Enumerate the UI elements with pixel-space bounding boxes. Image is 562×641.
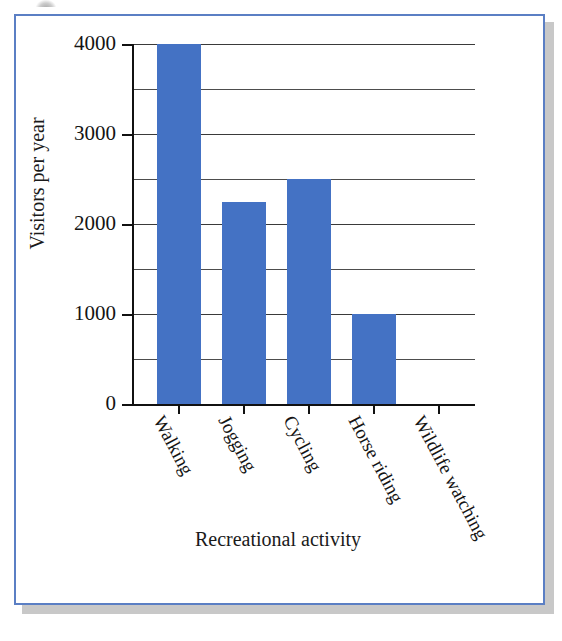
x-tick-jogging bbox=[243, 406, 245, 414]
y-tick-label-0: 0 bbox=[42, 393, 116, 414]
bar-cycling[interactable] bbox=[287, 179, 331, 404]
y-tick-3000 bbox=[122, 134, 134, 136]
y-tick-label-1000: 1000 bbox=[42, 303, 116, 324]
x-label-wildlife-watching: Wildlife watching bbox=[409, 412, 493, 543]
x-label-walking: Walking bbox=[149, 412, 198, 479]
x-axis-title: Recreational activity bbox=[128, 528, 428, 551]
y-tick-4000 bbox=[122, 44, 134, 46]
x-tick-horse-riding bbox=[373, 406, 375, 414]
x-label-jogging: Jogging bbox=[214, 412, 262, 475]
y-tick-label-4000: 4000 bbox=[42, 33, 116, 54]
bar-walking[interactable] bbox=[157, 44, 201, 404]
x-axis-line bbox=[124, 404, 475, 406]
y-tick-0 bbox=[122, 404, 134, 406]
y-tick-2000 bbox=[122, 224, 134, 226]
y-tick-1000 bbox=[122, 314, 134, 316]
bar-jogging[interactable] bbox=[222, 202, 266, 404]
figure-page: Visitors per year 4000 3000 2000 1000 0 bbox=[0, 0, 562, 641]
x-tick-cycling bbox=[308, 406, 310, 414]
x-tick-walking bbox=[178, 406, 180, 414]
bar-chart: Visitors per year 4000 3000 2000 1000 0 bbox=[0, 0, 562, 641]
y-axis-title: Visitors per year bbox=[26, 84, 49, 284]
bar-horse-riding[interactable] bbox=[352, 314, 396, 404]
y-tick-label-3000: 3000 bbox=[42, 123, 116, 144]
x-label-horse-riding: Horse riding bbox=[344, 412, 408, 507]
x-label-cycling: Cycling bbox=[279, 412, 327, 475]
y-tick-label-2000: 2000 bbox=[42, 213, 116, 234]
x-tick-wildlife-watching bbox=[438, 406, 440, 414]
